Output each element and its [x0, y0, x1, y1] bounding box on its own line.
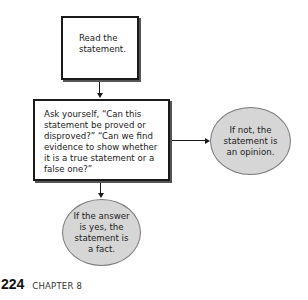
arrow-down-icon — [97, 93, 103, 98]
connector-ask-to-fact — [100, 183, 101, 193]
ask-yourself-text: Ask yourself, “Can this statement be pro… — [44, 109, 157, 174]
read-statement-box: Read the statement. — [61, 16, 139, 80]
connector-read-to-ask — [99, 82, 100, 93]
connector-ask-to-opinion — [172, 140, 205, 141]
opinion-outcome-text: If not, the statement is an opinion. — [217, 125, 284, 158]
read-statement-text: Read the statement. — [79, 33, 126, 54]
fact-outcome-text: If the answer is yes, the statement is a… — [73, 211, 130, 255]
fact-outcome-ellipse: If the answer is yes, the statement is a… — [62, 199, 141, 266]
chapter-label: CHAPTER 8 — [32, 281, 82, 291]
ask-yourself-box: Ask yourself, “Can this statement be pro… — [33, 99, 170, 181]
arrow-down-icon — [98, 193, 104, 198]
page-number: 224 — [1, 276, 24, 292]
page-footer: 224CHAPTER 8 — [1, 274, 82, 293]
opinion-outcome-ellipse: If not, the statement is an opinion. — [210, 107, 291, 175]
